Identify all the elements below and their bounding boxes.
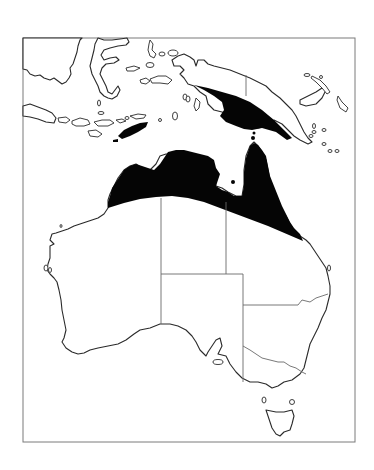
island — [159, 52, 165, 56]
island — [60, 225, 62, 228]
borneo-coast — [23, 38, 82, 84]
tasmania-coast — [266, 410, 294, 436]
bali-lombok-coast — [58, 117, 70, 123]
range-islet — [231, 180, 235, 184]
wetar-coast — [130, 114, 146, 119]
island — [335, 150, 339, 153]
range-timor — [118, 122, 148, 139]
sula-coast — [126, 66, 140, 71]
halmahera-coast — [148, 40, 156, 58]
island — [328, 150, 332, 153]
seram-coast — [150, 76, 172, 84]
sulawesi-coast — [90, 38, 129, 99]
sumba-coast — [88, 130, 102, 137]
new-britain-coast — [300, 88, 326, 106]
alor-coast — [116, 119, 126, 123]
island — [320, 76, 323, 79]
island — [98, 112, 104, 115]
king-island — [262, 397, 266, 403]
island — [328, 265, 331, 271]
range-timor-islet — [113, 139, 118, 142]
java-coast — [23, 104, 56, 123]
island — [313, 124, 316, 129]
distribution-map — [0, 0, 374, 470]
sumbawa-coast — [72, 118, 90, 126]
island — [309, 135, 313, 138]
flinders-island — [290, 400, 295, 405]
island — [44, 265, 48, 271]
island — [322, 143, 326, 146]
island — [125, 117, 129, 120]
buru-coast — [140, 78, 150, 84]
map-canvas — [0, 0, 374, 470]
island — [49, 268, 52, 273]
flores-coast — [94, 120, 114, 126]
island — [173, 112, 178, 120]
range-islet — [251, 136, 255, 140]
bougainville-coast — [337, 96, 348, 112]
island — [159, 119, 162, 122]
range-islet — [253, 132, 256, 135]
kangaroo-island — [213, 360, 223, 365]
tanimbar-coast — [194, 98, 200, 111]
island — [304, 74, 310, 77]
island — [168, 50, 178, 56]
island — [146, 63, 154, 68]
island — [186, 96, 190, 102]
island — [312, 131, 316, 134]
island — [98, 100, 101, 106]
island — [322, 129, 326, 132]
